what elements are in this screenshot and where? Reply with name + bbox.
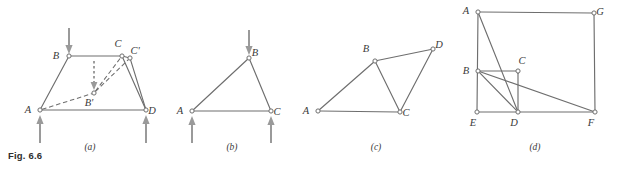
load-arrow-up-d — [142, 115, 149, 143]
panel-a: ABCC'DB'(a) — [24, 28, 156, 153]
member-A-D — [479, 14, 517, 110]
joint-B — [373, 59, 377, 63]
member-C-D — [123, 58, 145, 108]
figure-container: ABCC'DB'(a)ABC(b)ABCD(c)AGBCEDF(d) Fig. … — [0, 0, 637, 171]
joint-label-Cp: C' — [130, 45, 140, 56]
joint-label-E: E — [469, 117, 477, 128]
joint-B — [67, 54, 71, 58]
joint-label-C: C — [402, 107, 410, 118]
joint-label-G: G — [596, 6, 604, 17]
panel-caption-d: (d) — [529, 142, 540, 153]
figure-number: Fig. 6.6 — [8, 150, 42, 161]
panel-c: ABCD(c) — [302, 39, 443, 153]
joint-label-A: A — [24, 104, 32, 115]
joint-C — [269, 109, 273, 113]
load-arrow-up-a-head — [188, 116, 195, 125]
joint-E — [475, 110, 479, 114]
panel-d: AGBCEDF(d) — [462, 5, 604, 153]
joint-label-D: D — [434, 39, 443, 50]
load-arrow-dashed-down-b-head — [91, 82, 98, 90]
member-A-B — [41, 58, 68, 108]
joint-label-F: F — [587, 117, 595, 128]
member-A-B — [194, 59, 248, 109]
joint-label-B: B — [252, 47, 259, 58]
load-arrow-down-b-head — [65, 45, 72, 54]
member-Cp-D — [131, 60, 146, 108]
member-A-G — [480, 12, 592, 13]
joint-C — [120, 54, 124, 58]
member-C-Cp — [124, 57, 128, 58]
member-C-D — [401, 51, 432, 110]
joint-A — [190, 109, 194, 113]
load-arrow-up-d-head — [142, 115, 149, 124]
joint-C — [516, 69, 520, 73]
joint-label-A: A — [302, 105, 310, 116]
joint-A — [38, 108, 42, 112]
joint-label-Bp: B' — [85, 97, 94, 108]
joint-label-D: D — [509, 117, 518, 128]
displaced-member-Bp-C — [95, 58, 120, 91]
load-arrow-dashed-down-b — [91, 61, 98, 90]
panel-caption-a: (a) — [84, 142, 95, 153]
joint-label-C: C — [273, 106, 281, 117]
member-A-B — [320, 62, 374, 109]
load-arrow-up-c — [267, 116, 274, 143]
member-A-C — [320, 111, 398, 112]
joint-C — [398, 110, 402, 114]
joint-label-B: B — [53, 50, 60, 61]
load-arrow-up-a-head — [36, 115, 43, 124]
panel-caption-b: (b) — [226, 142, 237, 153]
load-arrow-up-a — [188, 116, 195, 143]
joint-B — [476, 69, 480, 73]
member-G-F — [594, 15, 595, 110]
load-arrow-up-c-head — [267, 116, 274, 125]
joint-label-A: A — [176, 105, 184, 116]
joint-F — [593, 110, 597, 114]
joint-Cp — [128, 56, 132, 60]
panel-b: ABC(b) — [176, 30, 282, 153]
load-arrow-down-b — [65, 28, 72, 54]
joint-label-B: B — [363, 43, 370, 54]
load-arrow-up-a — [36, 115, 43, 143]
joint-Bp — [92, 91, 96, 95]
joint-label-D: D — [147, 105, 156, 116]
member-B-F — [480, 72, 593, 112]
displaced-member-Bp-Cp — [96, 60, 129, 92]
member-B-C — [376, 63, 399, 110]
joint-label-C: C — [114, 38, 122, 49]
figure-drawing: ABCC'DB'(a)ABC(b)ABCD(c)AGBCEDF(d) — [0, 0, 637, 171]
member-B-D — [377, 49, 431, 60]
joint-A — [476, 10, 480, 14]
panels-group: ABCC'DB'(a)ABC(b)ABCD(c)AGBCEDF(d) — [24, 5, 604, 153]
joint-B — [247, 56, 251, 60]
joint-A — [316, 109, 320, 113]
member-B-C — [250, 60, 270, 109]
joint-D — [516, 110, 520, 114]
member-A-E — [477, 14, 478, 110]
joint-label-B: B — [463, 65, 470, 76]
joint-label-C: C — [518, 55, 526, 66]
joint-label-A: A — [462, 5, 470, 16]
panel-caption-c: (c) — [371, 142, 382, 153]
